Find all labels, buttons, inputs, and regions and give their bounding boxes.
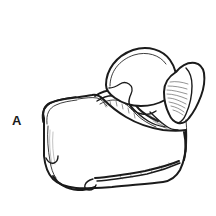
bone-illustration <box>0 0 216 216</box>
panel-label: A <box>12 114 22 127</box>
figure-canvas: A <box>0 0 216 216</box>
